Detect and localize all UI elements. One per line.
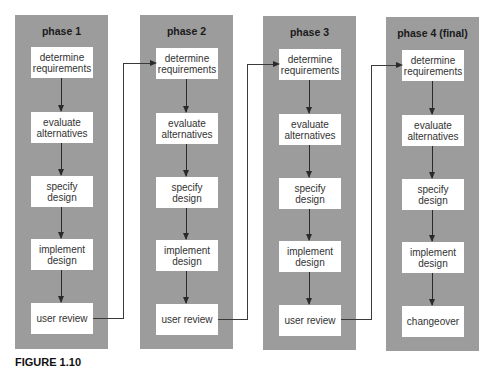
step-label: design <box>171 193 202 204</box>
step-label: evaluate <box>407 120 458 131</box>
step-label: alternatives <box>407 131 458 142</box>
step-label: implement <box>410 247 456 258</box>
down-arrow-icon <box>432 81 433 114</box>
down-arrow-icon <box>186 208 187 239</box>
step-implement-design: implementdesign <box>156 240 218 271</box>
step-determine-requirements: determinerequirements <box>279 49 341 80</box>
step-label: specify <box>294 183 325 194</box>
step-label: requirements <box>404 66 462 77</box>
step-label: design <box>294 194 325 205</box>
step-determine-requirements: determinerequirements <box>402 50 464 81</box>
step-label: determine <box>404 55 462 66</box>
step-label: implement <box>164 245 210 256</box>
phase-title: phase 4 (final) <box>386 27 479 39</box>
step-label: changeover <box>407 316 459 327</box>
step-determine-requirements: determinerequirements <box>31 47 93 78</box>
step-label: design <box>39 255 85 266</box>
down-arrow-icon <box>309 80 310 113</box>
down-arrow-icon <box>432 146 433 178</box>
connector-segment <box>247 64 248 320</box>
connector-segment <box>218 319 248 320</box>
down-arrow-icon <box>432 210 433 241</box>
step-label: design <box>46 192 77 203</box>
step-label: design <box>164 256 210 267</box>
connector-segment <box>123 63 150 64</box>
step-evaluate-alternatives: evaluatealternatives <box>402 115 464 146</box>
step-label: determine <box>281 54 339 65</box>
step-specify-design: specifydesign <box>402 179 464 210</box>
step-user-review: user review <box>31 303 93 334</box>
down-arrow-icon <box>186 144 187 176</box>
step-user-review: user review <box>156 304 218 335</box>
step-label: alternatives <box>36 128 87 139</box>
down-arrow-icon <box>186 271 187 303</box>
step-label: determine <box>158 53 216 64</box>
step-label: user review <box>36 313 87 324</box>
step-evaluate-alternatives: evaluatealternatives <box>31 112 93 143</box>
step-evaluate-alternatives: evaluatealternatives <box>279 114 341 145</box>
right-arrow-icon <box>150 60 157 66</box>
phase-title: phase 1 <box>15 25 108 37</box>
step-label: evaluate <box>284 119 335 130</box>
step-label: implement <box>39 244 85 255</box>
step-label: requirements <box>281 65 339 76</box>
phase-panel-1: phase 1 determinerequirements evaluateal… <box>15 15 108 349</box>
connector-segment <box>371 65 396 66</box>
phase-title: phase 3 <box>263 26 356 38</box>
step-label: design <box>417 195 448 206</box>
down-arrow-icon <box>61 78 62 111</box>
down-arrow-icon <box>432 273 433 305</box>
step-label: user review <box>284 315 335 326</box>
step-implement-design: implementdesign <box>402 242 464 273</box>
down-arrow-icon <box>61 207 62 238</box>
down-arrow-icon <box>61 143 62 175</box>
step-label: specify <box>417 184 448 195</box>
phase-title: phase 2 <box>140 25 233 37</box>
down-arrow-icon <box>186 79 187 112</box>
right-arrow-icon <box>273 61 280 67</box>
step-label: design <box>410 258 456 269</box>
step-label: evaluate <box>161 118 212 129</box>
right-arrow-icon <box>396 62 403 68</box>
step-label: implement <box>287 246 333 257</box>
step-specify-design: specifydesign <box>156 177 218 208</box>
step-label: user review <box>161 314 212 325</box>
step-label: requirements <box>158 64 216 75</box>
connector-segment <box>247 64 273 65</box>
step-label: specify <box>46 181 77 192</box>
step-changeover: changeover <box>402 306 464 337</box>
step-determine-requirements: determinerequirements <box>156 48 218 79</box>
step-label: alternatives <box>284 130 335 141</box>
down-arrow-icon <box>309 272 310 304</box>
step-label: specify <box>171 182 202 193</box>
step-user-review: user review <box>279 305 341 336</box>
figure-caption: FIGURE 1.10 <box>15 356 81 368</box>
step-implement-design: implementdesign <box>279 241 341 272</box>
connector-segment <box>371 65 372 320</box>
step-specify-design: specifydesign <box>31 176 93 207</box>
down-arrow-icon <box>61 270 62 302</box>
connector-segment <box>93 318 124 319</box>
step-label: requirements <box>33 63 91 74</box>
connector-segment <box>341 319 372 320</box>
step-label: determine <box>33 52 91 63</box>
step-label: evaluate <box>36 117 87 128</box>
down-arrow-icon <box>309 145 310 177</box>
step-label: design <box>287 257 333 268</box>
down-arrow-icon <box>309 209 310 240</box>
connector-segment <box>123 63 124 319</box>
step-implement-design: implementdesign <box>31 239 93 270</box>
step-label: alternatives <box>161 129 212 140</box>
step-specify-design: specifydesign <box>279 178 341 209</box>
step-evaluate-alternatives: evaluatealternatives <box>156 113 218 144</box>
